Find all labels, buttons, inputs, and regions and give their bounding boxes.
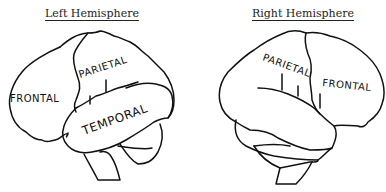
brain-diagram: FRONTAL PARIETAL TEMPORAL PARIETAL FRONT… <box>0 0 386 192</box>
right-sylvian-fissure <box>258 88 334 126</box>
right-cerebellum-line <box>254 145 290 147</box>
left-hemisphere-drawing: FRONTAL PARIETAL TEMPORAL <box>10 31 175 180</box>
right-parietal-label: PARIETAL <box>261 52 312 80</box>
left-frontal-label: FRONTAL <box>10 93 59 104</box>
left-sylvian-fissure <box>76 82 138 108</box>
right-hemisphere-drawing: PARIETAL FRONTAL <box>219 31 384 184</box>
left-brainstem <box>84 151 120 180</box>
right-frontal-label: FRONTAL <box>322 77 372 93</box>
left-parietal-label: PARIETAL <box>77 54 128 80</box>
